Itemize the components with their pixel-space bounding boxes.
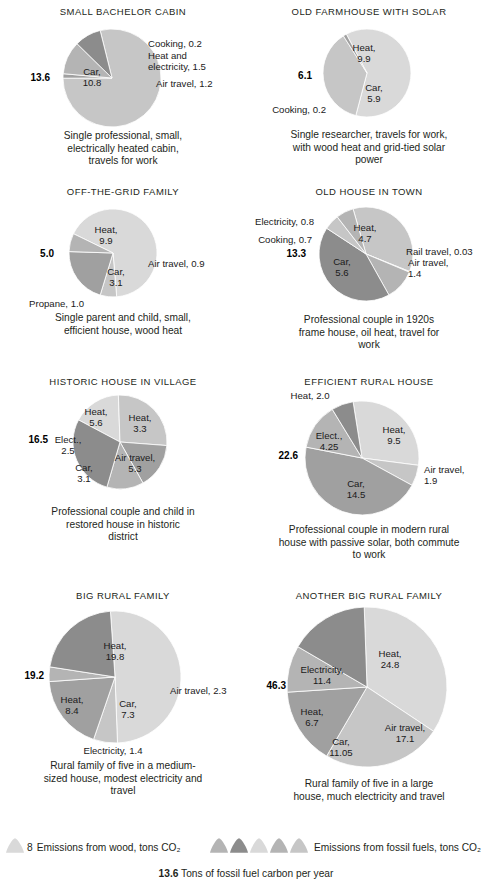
pie-chart bbox=[48, 610, 182, 744]
panel-title: OLD FARMHOUSE WITH SOLAR bbox=[246, 6, 492, 17]
slice-label: Heat, 4.7 bbox=[340, 222, 390, 244]
legend-wood: 8 Emissions from wood, tons CO₂ bbox=[6, 838, 180, 857]
panel-caption: Single parent and child, small, efficien… bbox=[8, 312, 238, 337]
legend-footer-text: Tons of fossil fuel carbon per year bbox=[181, 868, 333, 879]
total-value: 13.6 bbox=[0, 72, 50, 83]
total-value: 16.5 bbox=[0, 434, 48, 445]
slice-label: Heat, 5.6 bbox=[72, 406, 120, 428]
legend-wood-value: 8 bbox=[27, 842, 33, 853]
wood-wedge-icon bbox=[6, 838, 24, 857]
slice-label: Propane, 1.0 bbox=[0, 298, 84, 309]
slice-label: Cooking, 0.7 bbox=[246, 234, 312, 245]
fossil-wedge-icon bbox=[270, 838, 288, 857]
panel-caption: Professional couple and child in restore… bbox=[6, 506, 240, 544]
slice-label: Heat, 6.7 bbox=[288, 706, 336, 728]
legend-footer-number: 13.6 bbox=[159, 868, 179, 879]
panel-title: OLD HOUSE IN TOWN bbox=[246, 186, 492, 197]
slice-label: Car, 3.1 bbox=[94, 266, 138, 288]
slice-label: Air travel, 1.2 bbox=[156, 78, 246, 89]
slice-label: Heat, 19.8 bbox=[90, 640, 140, 662]
panel-caption: Single researcher, travels for work, wit… bbox=[254, 129, 484, 167]
panel-title: SMALL BACHELOR CABIN bbox=[0, 6, 246, 17]
slice-label: Heat, 9.9 bbox=[78, 224, 134, 246]
slice-label: Air travel, 2.3 bbox=[170, 685, 246, 696]
panel-old-house-in-town: OLD HOUSE IN TOWN 13.3 Heat, 4.7 Rail tr… bbox=[246, 186, 492, 370]
legend-fossil-text: Emissions from fossil fuels, tons CO₂ bbox=[314, 842, 481, 853]
panel-title: ANOTHER BIG RURAL FAMILY bbox=[246, 590, 492, 601]
legend: 8 Emissions from wood, tons CO₂ Emission… bbox=[0, 838, 492, 892]
panel-another-big-rural-family: ANOTHER BIG RURAL FAMILY 46.3 Heat, 24.8… bbox=[246, 590, 492, 816]
panel-off-the-grid-family: OFF-THE-GRID FAMILY 5.0 Heat, 9.9 Air tr… bbox=[0, 186, 246, 370]
slice-label: Car, 11.05 bbox=[316, 736, 366, 758]
slice-label: Electricity, 0.8 bbox=[246, 216, 314, 227]
pie-chart bbox=[318, 206, 414, 302]
fossil-wedge-icon bbox=[290, 838, 308, 857]
panel-big-rural-family: BIG RURAL FAMILY 19.2 Heat, 19.8 Air tra… bbox=[0, 590, 246, 802]
slice-label: Car, 5.9 bbox=[350, 82, 398, 104]
slice-label: Heat, 9.5 bbox=[370, 424, 418, 446]
panel-historic-house-in-village: HISTORIC HOUSE IN VILLAGE 16.5 Heat, 3.3… bbox=[0, 376, 246, 570]
total-value: 19.2 bbox=[0, 670, 44, 681]
slice-label: Heat, 8.4 bbox=[48, 694, 96, 716]
slice-label: Air travel, 0.9 bbox=[148, 258, 246, 269]
fossil-wedge-icon bbox=[250, 838, 268, 857]
slice-label: Heat, 9.9 bbox=[338, 42, 390, 64]
slice-label: Heat, 24.8 bbox=[364, 648, 416, 670]
panel-old-farmhouse-with-solar: OLD FARMHOUSE WITH SOLAR 6.1 Heat, 9.9 C… bbox=[246, 6, 492, 180]
slice-label: Electricity, 11.4 bbox=[284, 664, 360, 686]
pie-slice bbox=[110, 611, 181, 743]
panel-caption: Single professional, small, electrically… bbox=[8, 130, 238, 168]
panel-title: OFF-THE-GRID FAMILY bbox=[0, 186, 246, 197]
total-value: 46.3 bbox=[246, 680, 286, 691]
slice-label: Elect., 2.5 bbox=[44, 434, 92, 456]
fossil-wedge-icons bbox=[210, 838, 308, 857]
slice-label: Car, 3.1 bbox=[64, 462, 104, 484]
panel-caption: Rural family of five in a medium- sized … bbox=[4, 760, 242, 798]
panel-caption: Professional couple in modern rural hous… bbox=[248, 524, 490, 562]
slice-label: Heat, 2.0 bbox=[272, 390, 348, 401]
slice-label: Air travel, 1.9 bbox=[424, 464, 492, 486]
total-value: 6.1 bbox=[262, 70, 312, 81]
slice-label: Electricity, 1.4 bbox=[58, 745, 168, 756]
panel-efficient-rural-house: EFFICIENT RURAL HOUSE 22.6 Heat, 9.5 Air… bbox=[246, 376, 492, 580]
legend-footer: 13.6 Tons of fossil fuel carbon per year bbox=[0, 868, 492, 879]
slice-label: Air travel, 5.3 bbox=[104, 452, 166, 474]
slice-label: Heat, 3.3 bbox=[118, 412, 162, 434]
slice-label: Heat and electricity, 1.5 bbox=[148, 50, 244, 72]
slice-label: Air travel, 1.4 bbox=[408, 257, 492, 279]
slice-label: Car, 14.5 bbox=[330, 478, 382, 500]
slice-label: Car, 5.6 bbox=[320, 256, 364, 278]
slice-label: Cooking, 0.2 bbox=[148, 38, 244, 49]
panel-caption: Professional couple in 1920s frame house… bbox=[258, 314, 480, 352]
panel-title: HISTORIC HOUSE IN VILLAGE bbox=[0, 376, 246, 387]
fossil-wedge-icon bbox=[230, 838, 248, 857]
fossil-wedge-icon bbox=[210, 838, 228, 857]
slice-label: Air travel, 17.1 bbox=[374, 722, 436, 744]
legend-wood-text: Emissions from wood, tons CO₂ bbox=[37, 842, 181, 853]
slice-label: Car, 10.8 bbox=[68, 66, 116, 88]
panel-title: EFFICIENT RURAL HOUSE bbox=[246, 376, 492, 387]
panel-caption: Rural family of five in a large house, m… bbox=[256, 778, 482, 803]
emissions-pie-chart-figure: SMALL BACHELOR CABIN 13.6 Cooking, 0.2 H… bbox=[0, 0, 492, 892]
total-value: 13.3 bbox=[246, 248, 306, 259]
total-value: 5.0 bbox=[6, 248, 54, 259]
slice-label: Car, 7.3 bbox=[106, 698, 150, 720]
slice-label: Elect., 4.25 bbox=[304, 430, 354, 452]
total-value: 22.6 bbox=[246, 450, 298, 461]
slice-label: Cooking, 0.2 bbox=[246, 104, 326, 115]
legend-fossil: Emissions from fossil fuels, tons CO₂ bbox=[210, 838, 481, 857]
slice-label: Rail travel, 0.03 bbox=[406, 246, 492, 257]
panel-small-bachelor-cabin: SMALL BACHELOR CABIN 13.6 Cooking, 0.2 H… bbox=[0, 6, 246, 180]
panel-title: BIG RURAL FAMILY bbox=[0, 590, 246, 601]
